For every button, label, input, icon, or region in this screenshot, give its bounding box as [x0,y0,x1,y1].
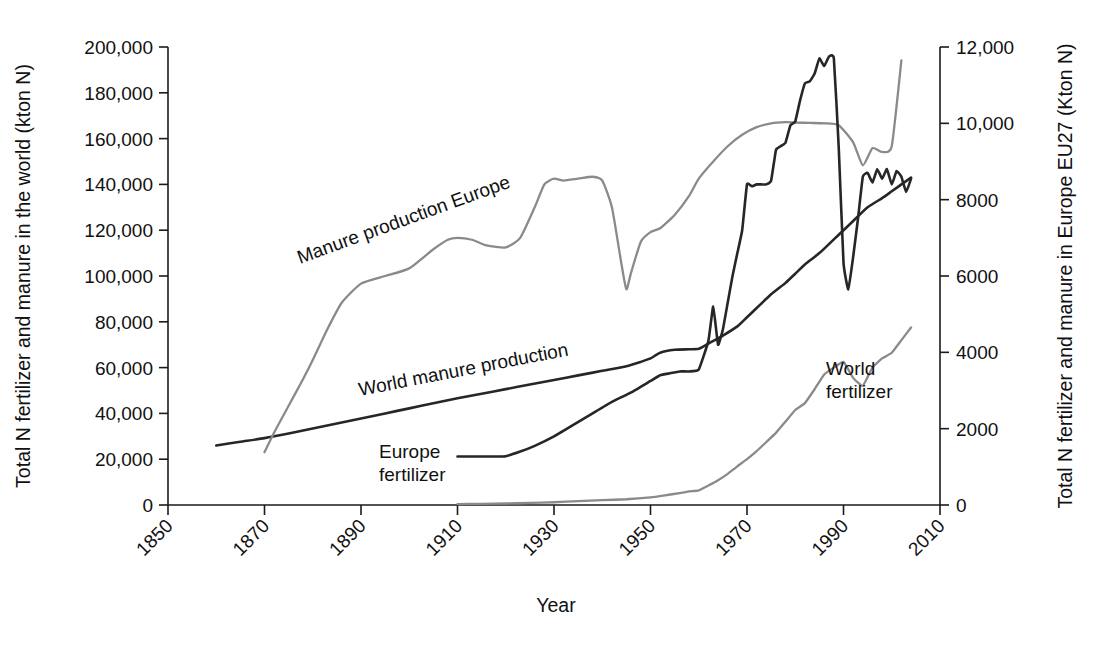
left-tick-label: 80,000 [95,312,153,333]
series-layer [216,55,911,504]
y-axis-title: Total N fertilizer and manure in the wor… [12,64,34,488]
right-tick-label: 0 [956,495,967,516]
left-tick-label: 140,000 [84,174,153,195]
left-tick-label: 200,000 [84,37,153,58]
right-tick-label: 6000 [956,266,998,287]
series-annotation: fertilizer [379,464,446,485]
x-tick-label: 1990 [808,515,853,560]
left-tick-label: 60,000 [95,358,153,379]
x-tick-label: 2010 [904,515,949,560]
left-axis-ticks: 020,00040,00060,00080,000100,000120,0001… [84,37,168,516]
x-tick-label: 1910 [422,515,467,560]
right-tick-label: 12,000 [956,37,1014,58]
x-tick-label: 1890 [325,515,370,560]
left-tick-label: 100,000 [84,266,153,287]
series-annotation: World [826,358,875,379]
right-tick-label: 10,000 [956,113,1014,134]
left-tick-label: 20,000 [95,449,153,470]
series-annotation: World manure production [357,339,570,400]
y2-axis-title: Total N fertilizer and manure in Europe … [1054,44,1076,509]
series-annotation: fertilizer [826,381,893,402]
line-chart: 020,00040,00060,00080,000100,000120,0001… [0,0,1096,645]
x-tick-label: 1970 [711,515,756,560]
right-tick-label: 4000 [956,342,998,363]
left-tick-label: 160,000 [84,129,153,150]
x-axis-ticks: 185018701890191019301950197019902010 [132,505,949,560]
x-tick-label: 1950 [615,515,660,560]
right-tick-label: 2000 [956,419,998,440]
x-tick-label: 1850 [132,515,177,560]
right-tick-label: 8000 [956,190,998,211]
series-annotation: Manure production Europe [294,171,513,268]
x-tick-label: 1930 [518,515,563,560]
right-axis-ticks: 0200040006000800010,00012,000 [940,37,1014,516]
x-axis-title: Year [536,594,576,616]
series-annotation: Europe [379,441,440,462]
left-tick-label: 120,000 [84,220,153,241]
left-tick-label: 0 [142,495,153,516]
left-tick-label: 180,000 [84,83,153,104]
x-tick-label: 1870 [229,515,274,560]
left-tick-label: 40,000 [95,403,153,424]
chart-figure: 020,00040,00060,00080,000100,000120,0001… [0,0,1096,645]
series-line-world-manure-production [216,178,911,446]
series-annotations: Manure production EuropeWorld manure pro… [294,171,893,485]
